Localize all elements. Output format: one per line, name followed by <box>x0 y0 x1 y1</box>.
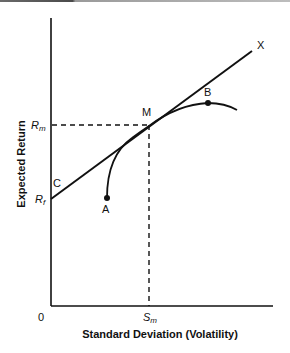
origin-label: 0 <box>38 311 44 323</box>
point-a-marker <box>104 195 110 201</box>
rm-tick-label: Rm <box>31 119 46 133</box>
x-axis-title: Standard Deviation (Volatility) <box>82 328 238 340</box>
sm-tick-label: Sm <box>143 311 157 325</box>
cml-diagram: A B C M X Rm Rf Sm 0 Standard Deviation … <box>0 0 290 353</box>
rf-tick-label: Rf <box>35 193 46 207</box>
efficient-frontier-curve <box>107 103 237 198</box>
label-b: B <box>204 86 211 98</box>
point-b-marker <box>205 100 211 106</box>
label-x: X <box>257 39 265 51</box>
label-a: A <box>102 203 110 215</box>
y-axis-title: Expected Return <box>15 120 27 208</box>
label-m: M <box>142 106 151 118</box>
label-c: C <box>53 177 61 189</box>
